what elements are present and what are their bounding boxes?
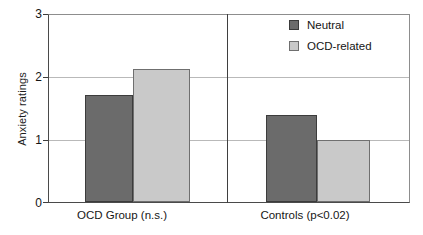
legend-item-neutral: Neutral <box>289 16 372 34</box>
legend-label-ocd-related: OCD-related <box>307 40 372 52</box>
x-tick-label-ocd-group: OCD Group (n.s.) <box>57 209 187 221</box>
y-tick-label-0: 0 <box>16 197 42 209</box>
legend: Neutral OCD-related <box>289 16 372 58</box>
gridline-2 <box>49 77 409 78</box>
y-axis-title: Anxiety ratings <box>16 39 28 179</box>
bar-ocd-group-ocd-related <box>133 69 190 202</box>
group-divider <box>227 14 228 203</box>
bar-controls-ocd-related <box>317 140 370 202</box>
x-tick-label-controls: Controls (p<0.02) <box>240 209 370 221</box>
y-tick-label-1: 1 <box>16 134 42 146</box>
legend-label-neutral: Neutral <box>307 19 344 31</box>
bar-ocd-group-neutral <box>85 95 133 202</box>
y-tick-label-3: 3 <box>16 8 42 20</box>
bar-chart: Anxiety ratings 3 2 1 0 OCD Group (n.s.)… <box>0 0 423 235</box>
legend-item-ocd-related: OCD-related <box>289 37 372 55</box>
neutral-swatch-icon <box>289 20 299 30</box>
y-tick-label-2: 2 <box>16 71 42 83</box>
bar-controls-neutral <box>266 115 317 202</box>
ocd-related-swatch-icon <box>289 41 299 51</box>
